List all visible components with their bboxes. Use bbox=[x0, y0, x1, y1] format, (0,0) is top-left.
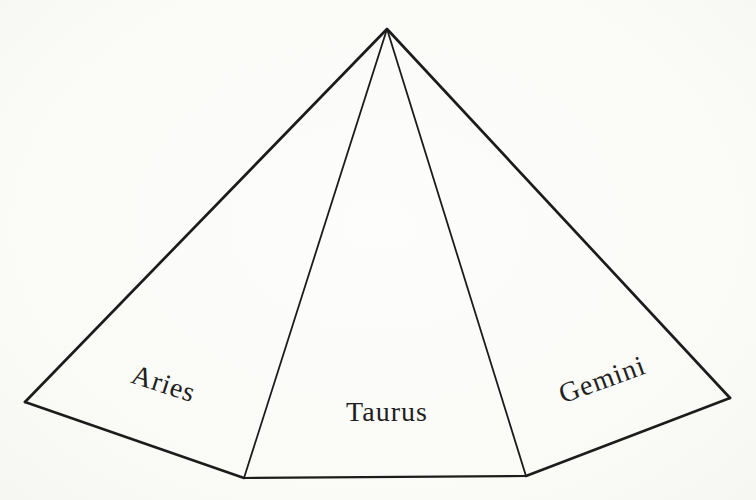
taurus-base-edge bbox=[244, 476, 526, 478]
segment-label-taurus: Taurus bbox=[346, 396, 428, 427]
segment-label-gemini: Gemini bbox=[555, 349, 650, 409]
outer-edges bbox=[25, 29, 730, 402]
gemini-base-edge bbox=[526, 398, 730, 476]
aries-base-edge bbox=[25, 402, 244, 478]
segment-label-aries: Aries bbox=[128, 358, 200, 408]
fan-diagram-canvas: Aries Taurus Gemini bbox=[0, 0, 756, 500]
zodiac-fan-diagram: Aries Taurus Gemini bbox=[0, 0, 756, 500]
